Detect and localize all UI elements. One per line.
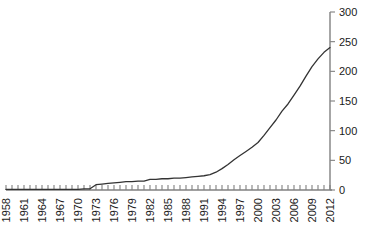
x-tick-label: 1976 [108,198,120,222]
x-tick-label: 1994 [216,198,228,222]
data-series-line [6,48,330,190]
y-tick-label: 100 [339,125,357,137]
line-chart-canvas: 1958196119641967197019731976197919821985… [0,0,367,232]
x-tick-label: 1964 [36,198,48,222]
y-tick-label: 250 [339,36,357,48]
x-tick-label: 2006 [288,198,300,222]
y-tick-label: 200 [339,65,357,77]
x-tick-label: 1970 [72,198,84,222]
y-tick-label: 150 [339,95,357,107]
x-tick-label: 1958 [0,198,12,222]
y-tick-label: 300 [339,6,357,18]
x-tick-label: 1973 [90,198,102,222]
x-tick-label: 2012 [324,198,336,222]
x-tick-label: 1997 [234,198,246,222]
x-tick-label: 2003 [270,198,282,222]
x-tick-label: 1985 [162,198,174,222]
y-tick-label: 0 [339,184,345,196]
chart-figure: 1958196119641967197019731976197919821985… [0,0,367,232]
x-tick-label: 1967 [54,198,66,222]
x-tick-label: 1961 [18,198,30,222]
y-tick-label: 50 [339,154,351,166]
x-tick-label: 1988 [180,198,192,222]
x-tick-label: 1991 [198,198,210,222]
x-tick-label: 2000 [252,198,264,222]
x-tick-label: 1982 [144,198,156,222]
x-tick-label: 2009 [306,198,318,222]
y-axis-ticks: 050100150200250300 [330,6,357,196]
x-tick-label: 1979 [126,198,138,222]
x-tick-labels: 1958196119641967197019731976197919821985… [0,198,336,222]
